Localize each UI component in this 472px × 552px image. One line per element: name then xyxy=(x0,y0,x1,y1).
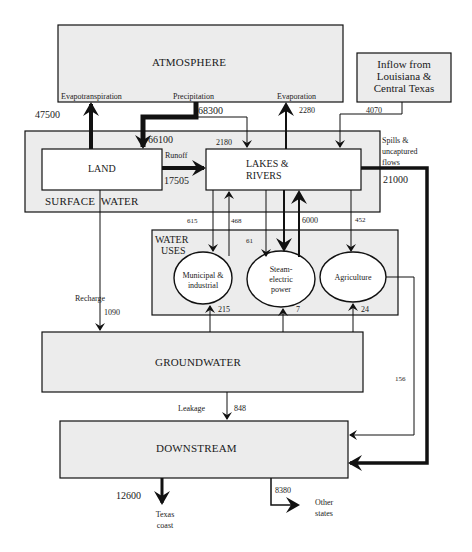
spills-label-line2: uncaptured xyxy=(382,146,418,157)
gw-agriculture-value: 24 xyxy=(361,304,369,315)
other-states-label-line2: states xyxy=(307,508,341,519)
texas-coast-label-line2: coast xyxy=(148,520,182,531)
steam-label-line1: Steam- xyxy=(251,265,311,275)
lakes-steam-value: 61 xyxy=(246,236,253,247)
precip-lakes-value: 2180 xyxy=(216,137,232,148)
gw-municipal-value: 215 xyxy=(218,304,230,315)
precipitation-label: Precipitation xyxy=(173,91,214,102)
municipal-label-line2: industrial xyxy=(174,281,232,291)
water-uses-label-line2: USES xyxy=(155,245,188,256)
spills-label-line1: Spills & xyxy=(382,135,418,146)
runoff-label: Runoff xyxy=(165,150,188,161)
leakage-label: Leakage xyxy=(178,403,205,414)
surface-water-label: SURFACE WATER xyxy=(45,196,139,207)
precip-land-value: 66100 xyxy=(148,134,173,145)
recharge-label: Recharge xyxy=(75,293,105,304)
recharge-value: 1090 xyxy=(104,307,120,318)
other-states-label: Other states xyxy=(307,497,341,519)
inflow-label-line2: Louisiana & xyxy=(357,70,451,82)
spills-label: Spills & uncaptured flows xyxy=(382,135,418,168)
leakage-value: 848 xyxy=(234,403,246,414)
spills-label-line3: flows xyxy=(382,157,418,168)
other-states-label-line1: Other xyxy=(307,497,341,508)
atmosphere-label: ATMOSPHERE xyxy=(152,57,226,68)
texas-coast-label: Texas coast xyxy=(148,509,182,531)
precipitation-value: 68300 xyxy=(198,105,223,116)
lakes-rivers-label: LAKES & RIVERS xyxy=(246,158,306,182)
lakes-rivers-label-line1: LAKES & xyxy=(246,158,306,170)
groundwater-label: GROUNDWATER xyxy=(155,357,241,368)
evaporation-value: 2280 xyxy=(299,105,315,116)
municipal-label-line1: Municipal & xyxy=(174,271,232,281)
lakes-agriculture-value: 452 xyxy=(355,215,366,226)
gw-steam-value: 7 xyxy=(296,304,300,315)
inflow-value: 4070 xyxy=(366,105,382,116)
evapotranspiration-value: 47500 xyxy=(35,109,60,120)
lakes-municipal-value: 615 xyxy=(187,216,198,227)
water-uses-label: WATER USES xyxy=(155,234,188,256)
agriculture-label: Agriculture xyxy=(320,272,386,283)
texas-coast-label-line1: Texas xyxy=(148,509,182,520)
texas-coast-value: 12600 xyxy=(116,490,141,501)
steam-label-line2: electric xyxy=(251,275,311,285)
municipal-label: Municipal & industrial xyxy=(174,271,232,291)
land-label: LAND xyxy=(88,163,116,174)
runoff-value: 17505 xyxy=(164,175,189,186)
lakes-rivers-label-line2: RIVERS xyxy=(246,170,306,182)
downstream-label: DOWNSTREAM xyxy=(156,443,237,454)
evapotranspiration-label: Evapotranspiration xyxy=(61,91,122,102)
other-states-value: 8380 xyxy=(275,485,291,496)
steam-lakes-value: 6000 xyxy=(302,215,318,226)
steam-label: Steam- electric power xyxy=(251,265,311,295)
inflow-label-line1: Inflow from xyxy=(357,58,451,70)
inflow-label-line3: Central Texas xyxy=(357,82,451,94)
municipal-lakes-value: 468 xyxy=(231,216,242,227)
agriculture-return-value: 156 xyxy=(395,374,406,385)
steam-label-line3: power xyxy=(251,285,311,295)
water-uses-label-line1: WATER xyxy=(155,234,188,245)
inflow-label: Inflow from Louisiana & Central Texas xyxy=(357,58,451,94)
evaporation-label: Evaporation xyxy=(277,91,316,102)
spills-value: 21000 xyxy=(383,174,408,185)
